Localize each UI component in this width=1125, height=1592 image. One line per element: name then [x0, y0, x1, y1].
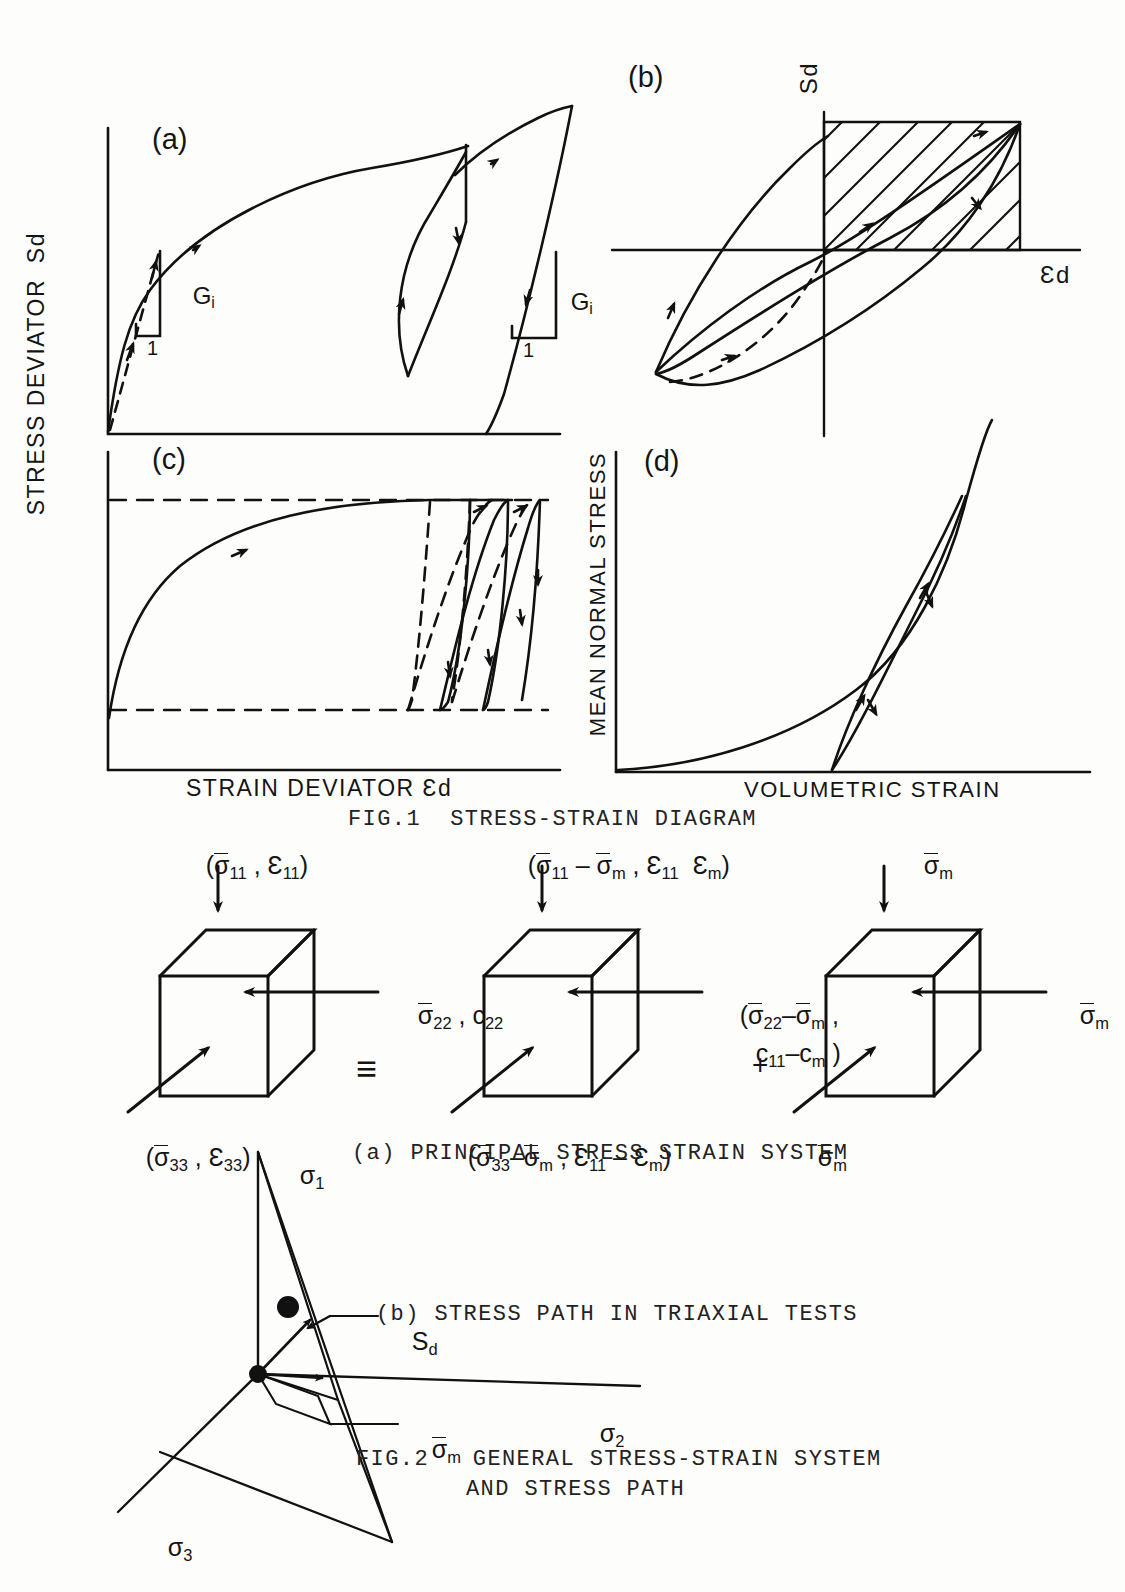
stress-deviator-point-label: Sd: [384, 1302, 438, 1384]
cube3-right-label: σm: [1052, 976, 1109, 1058]
fig1-y-axis-label: STRESS DEVIATOR Sd: [24, 232, 48, 515]
panel-label-d: (d): [644, 446, 679, 476]
equivalence-symbol: ≡: [356, 1050, 377, 1088]
stress-axis-sigma1-label: σ1: [272, 1136, 324, 1218]
panel-label-c: (c): [152, 444, 186, 474]
cube1-right-label: σ22 , c22: [390, 976, 503, 1058]
panel-b-x-axis-label: Ɛd: [1040, 262, 1071, 287]
cube3-top-label: σm: [896, 826, 953, 908]
gi-symbol-2: G: [571, 288, 590, 315]
cube2-right-label-line2: c11–cm ): [728, 1014, 841, 1096]
gi-symbol-1: G: [193, 282, 212, 309]
cube1-top-label: (σ11 , Ɛ11): [178, 826, 308, 908]
slope-run-label-1: 1: [147, 338, 158, 359]
cube2-top-label: (σ11 – σm , Ɛ11 Ɛm): [500, 826, 730, 908]
modulus-label-gi-2: Gi: [544, 264, 593, 343]
fig2-caption-line1: FIG.2 GENERAL STRESS-STRAIN SYSTEM: [356, 1448, 882, 1471]
gi-subscript-1: i: [211, 295, 215, 312]
figure-page: STRESS DEVIATOR Sd STRAIN DEVIATOR Ɛd (a…: [0, 0, 1125, 1592]
gi-subscript-2: i: [589, 301, 593, 318]
panel-d-x-axis-label: VOLUMETRIC STRAIN: [744, 778, 1001, 801]
stress-axis-sigma3-label: σ3: [140, 1508, 192, 1590]
cube1-bottom-label: (σ33 , Ɛ33): [118, 1118, 251, 1200]
modulus-label-gi-1: Gi: [166, 258, 215, 337]
fig2-subcaption-a: (a) PRINCIPAL STRESS STRAIN SYSTEM: [352, 1142, 848, 1165]
panel-b-y-axis-label: Sd: [796, 62, 821, 94]
fig2-caption-line2: AND STRESS PATH: [466, 1478, 685, 1501]
panel-label-b: (b): [628, 62, 663, 92]
stress-state-point: [277, 1296, 299, 1318]
fig2-subcaption-b: (b) STRESS PATH IN TRIAXIAL TESTS: [376, 1303, 858, 1326]
plus-symbol: +: [752, 1050, 768, 1079]
panel-label-a: (a): [152, 124, 187, 154]
origin-point: [249, 1365, 267, 1383]
fig1-x-axis-label: STRAIN DEVIATOR Ɛd: [186, 776, 452, 800]
slope-run-label-2: 1: [523, 340, 534, 361]
panel-d-y-axis-label: MEAN NORMAL STRESS: [586, 452, 609, 736]
